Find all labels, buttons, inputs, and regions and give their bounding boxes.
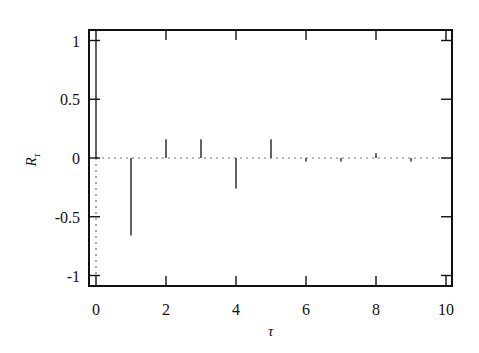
x-tick-label: 6 <box>302 301 310 318</box>
stem-series <box>96 41 446 236</box>
y-tick-label: 0 <box>72 150 80 167</box>
x-tick-label: 2 <box>162 301 170 318</box>
svg-text:Rτ: Rτ <box>23 153 42 167</box>
zero-reference-line <box>96 158 451 276</box>
y-tick-label: 0.5 <box>60 91 80 108</box>
autocorrelation-chart: 0246810 10.50-0.5-1 τ Rτ <box>0 0 479 353</box>
x-tick-label: 4 <box>232 301 240 318</box>
y-axis-label: Rτ <box>23 153 42 167</box>
x-tick-labels: 0246810 <box>92 301 454 318</box>
y-tick-label: -1 <box>67 268 80 285</box>
x-axis-label: τ <box>268 323 274 339</box>
y-tick-label: 1 <box>72 33 80 50</box>
y-axis-label-main: R <box>23 157 39 167</box>
y-axis-label-subscript: τ <box>31 153 42 157</box>
x-tick-label: 0 <box>92 301 100 318</box>
x-tick-label: 10 <box>438 301 454 318</box>
y-tick-labels: 10.50-0.5-1 <box>55 33 80 285</box>
x-tick-label: 8 <box>372 301 380 318</box>
y-tick-label: -0.5 <box>55 209 80 226</box>
